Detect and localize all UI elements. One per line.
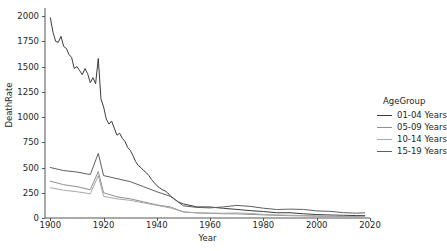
- legend-swatch: [377, 151, 392, 152]
- x-axis-tick-label: 1980: [253, 221, 275, 230]
- series-line: [50, 176, 364, 217]
- legend-swatch: [377, 115, 392, 116]
- legend-item[interactable]: 10-14 Years: [377, 133, 444, 145]
- y-axis-tick-label: 500: [23, 163, 39, 172]
- y-axis-tick-label: 1500: [17, 62, 39, 71]
- legend-label: 01-04 Years: [397, 110, 447, 120]
- x-axis-tick-label: 1960: [199, 221, 221, 230]
- x-axis-tick-label: 1920: [93, 221, 115, 230]
- x-axis-title: Year: [45, 233, 370, 243]
- x-axis-tick-label: 1900: [39, 221, 61, 230]
- y-axis-title: DeathRate: [4, 70, 14, 140]
- plot-area: [45, 8, 370, 218]
- x-axis-tick-label: 2020: [359, 221, 381, 230]
- y-axis-tick-label: 750: [23, 138, 39, 147]
- legend-label: 15-19 Years: [397, 146, 447, 156]
- legend-item[interactable]: 05-09 Years: [377, 121, 444, 133]
- x-axis-tick-label: 1940: [146, 221, 168, 230]
- y-axis-tick-label: 2000: [17, 12, 39, 21]
- legend-label: 10-14 Years: [397, 134, 447, 144]
- legend-item[interactable]: 15-19 Years: [377, 145, 444, 157]
- legend-title: AgeGroup: [383, 96, 444, 106]
- legend-swatch: [377, 139, 392, 140]
- legend: AgeGroup 01-04 Years05-09 Years10-14 Yea…: [377, 96, 444, 157]
- legend-label: 05-09 Years: [397, 122, 447, 132]
- y-axis-tick-label: 1000: [17, 113, 39, 122]
- y-axis-tick-label: 1250: [17, 88, 39, 97]
- y-axis-tick-label: 250: [23, 189, 39, 198]
- legend-items: 01-04 Years05-09 Years10-14 Years15-19 Y…: [377, 109, 444, 157]
- series-line: [50, 153, 364, 213]
- legend-swatch: [377, 127, 392, 128]
- x-axis-tick-label: 2000: [306, 221, 328, 230]
- y-axis-tick-label: 1750: [17, 37, 39, 46]
- series-line: [50, 18, 364, 216]
- series-lines: [45, 8, 370, 218]
- y-axis-tick-label: 0: [34, 214, 39, 223]
- legend-item[interactable]: 01-04 Years: [377, 109, 444, 121]
